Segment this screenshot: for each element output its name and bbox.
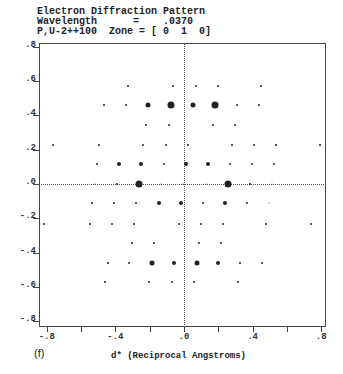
- plot-area: [39, 43, 326, 327]
- diffraction-spot: [172, 261, 176, 265]
- diffraction-spot: [113, 202, 115, 204]
- diffraction-spot: [251, 163, 253, 165]
- y-tick-label: -.2: [10, 211, 36, 221]
- vertical-zero-line: [184, 43, 185, 327]
- x-tick-label: .4: [238, 332, 268, 342]
- diffraction-spot: [220, 242, 222, 244]
- x-tick-mark: [150, 327, 151, 332]
- y-tick-label: .6: [10, 74, 36, 84]
- x-tick-label: -.8: [32, 332, 62, 342]
- y-tick-label: -.8: [10, 314, 36, 324]
- diffraction-spot: [205, 184, 206, 185]
- y-tick-label: .2: [10, 143, 36, 153]
- diffraction-spot: [145, 124, 147, 126]
- diffraction-spot: [171, 281, 173, 283]
- diffraction-spot: [52, 144, 54, 146]
- x-axis-label: d* (Reciprocal Angstroms): [111, 351, 246, 361]
- diffraction-spot: [275, 144, 277, 146]
- diffraction-spot: [117, 162, 121, 166]
- diffraction-spot: [167, 101, 174, 108]
- diffraction-spot: [104, 281, 106, 283]
- diffraction-spot: [182, 184, 183, 185]
- diffraction-spot: [142, 144, 144, 146]
- diffraction-spot: [206, 162, 210, 166]
- diffraction-spot: [153, 242, 155, 244]
- diffraction-spot: [148, 281, 150, 283]
- x-tick-label: .0: [169, 332, 199, 342]
- y-tick-label: .4: [10, 108, 36, 118]
- diffraction-spot: [172, 85, 174, 87]
- diffraction-spot: [231, 144, 233, 146]
- diffraction-spot: [103, 104, 105, 106]
- diffraction-spot: [237, 281, 239, 283]
- diffraction-spot: [136, 181, 143, 188]
- diffraction-spot: [190, 102, 195, 107]
- y-tick-label: .0: [10, 177, 36, 187]
- diffraction-spot: [310, 223, 312, 225]
- diffraction-spot: [43, 223, 45, 225]
- x-tick-mark: [287, 327, 288, 332]
- diffraction-spot: [168, 124, 170, 126]
- diffraction-spot: [94, 184, 95, 185]
- diffraction-spot: [128, 262, 130, 264]
- chart-title-block: Electron Diffraction PatternWavelength =…: [37, 7, 211, 37]
- diffraction-spot: [163, 163, 165, 165]
- diffraction-spot: [157, 201, 161, 205]
- diffraction-spot: [178, 223, 180, 225]
- diffraction-spot: [222, 223, 224, 225]
- diffraction-spot: [200, 223, 202, 225]
- diffraction-spot: [223, 201, 227, 205]
- diffraction-spot: [202, 202, 204, 204]
- diffraction-spot: [260, 85, 262, 87]
- diffraction-spot: [193, 281, 195, 283]
- diffraction-spot: [127, 85, 129, 87]
- diffraction-spot: [319, 144, 321, 146]
- diffraction-spot: [195, 85, 197, 87]
- diffraction-spot: [125, 104, 127, 106]
- diffraction-spot: [111, 223, 113, 225]
- diffraction-spot: [198, 242, 200, 244]
- x-tick-label: .8: [306, 332, 336, 342]
- x-tick-mark: [218, 327, 219, 332]
- diffraction-spot: [133, 223, 135, 225]
- x-tick-mark: [81, 327, 82, 332]
- diffraction-spot: [246, 202, 248, 204]
- diffraction-spot: [131, 242, 133, 244]
- diffraction-spot: [96, 163, 98, 165]
- diffraction-spot: [161, 184, 162, 185]
- diffraction-spot: [91, 202, 93, 204]
- diffraction-spot: [184, 162, 188, 166]
- diffraction-spot: [265, 223, 267, 225]
- diffraction-spot: [116, 183, 118, 185]
- diffraction-spot: [187, 144, 189, 146]
- diffraction-spot: [212, 124, 214, 126]
- diffraction-spot: [269, 203, 270, 204]
- diffraction-spot: [107, 262, 109, 264]
- y-tick-label: .8: [10, 40, 36, 50]
- diffraction-spot: [236, 104, 238, 106]
- diffraction-spot: [212, 101, 219, 108]
- diffraction-spot: [217, 85, 219, 87]
- y-tick-label: -.4: [10, 246, 36, 256]
- diffraction-spot: [271, 184, 272, 185]
- diffraction-spot: [165, 144, 167, 146]
- diffraction-spot: [139, 162, 143, 166]
- diffraction-spot: [261, 262, 263, 264]
- diffraction-spot: [179, 201, 183, 205]
- diffraction-spot: [225, 181, 232, 188]
- y-tick-label: -.6: [10, 280, 36, 290]
- diffraction-spot: [216, 261, 220, 265]
- diffraction-spot: [273, 163, 275, 165]
- diffraction-spot: [195, 260, 200, 265]
- diffraction-spot: [258, 104, 260, 106]
- diffraction-spot: [98, 144, 100, 146]
- diffraction-spot: [239, 262, 241, 264]
- diffraction-spot: [145, 102, 150, 107]
- panel-label: (f): [34, 347, 44, 359]
- zone-label: P,U-2++100 Zone = [ 0 1 0]: [37, 27, 211, 37]
- diffraction-spot: [253, 144, 255, 146]
- diffraction-spot: [249, 183, 251, 185]
- x-tick-label: -.4: [100, 332, 130, 342]
- diffraction-spot: [89, 223, 91, 225]
- diffraction-spot: [149, 260, 154, 265]
